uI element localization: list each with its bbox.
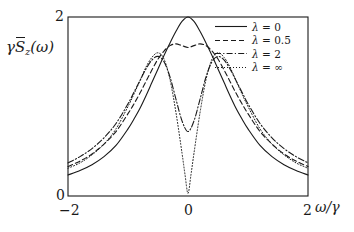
legend-lambda-symbol-2: λ [252, 48, 259, 60]
legend-swatch-dashdot [214, 48, 248, 59]
x-tick-label-2: 2 [303, 202, 312, 218]
y-axis-label: γSz(ω) [6, 38, 54, 57]
legend-label-0: λ = 0 [252, 21, 281, 33]
legend-swatch-solid [214, 21, 248, 32]
figure-container: γSz(ω) ω/γ 2 0 −2 0 2 λ = 0λ = 0.5λ = 2λ… [0, 0, 354, 232]
y-tick-label-2: 2 [55, 8, 64, 24]
legend-label-2: λ = 2 [252, 48, 281, 60]
y-axis-label-arg: (ω) [30, 38, 54, 56]
legend-label-3: λ = ∞ [252, 61, 283, 73]
x-tick-label-0: 0 [184, 202, 193, 218]
legend-swatch-dotted [214, 62, 248, 73]
legend-item-0[interactable]: λ = 0 [214, 20, 306, 33]
legend-item-1[interactable]: λ = 0.5 [214, 34, 306, 47]
y-tick-label-0: 0 [56, 187, 65, 203]
x-axis-label: ω/γ [315, 199, 340, 215]
legend-item-3[interactable]: λ = ∞ [214, 61, 306, 74]
legend-label-1: λ = 0.5 [252, 34, 291, 46]
x-tick-label-minus2: −2 [59, 202, 80, 218]
legend-lambda-symbol-1: λ [252, 34, 259, 46]
y-axis-label-gamma: γ [6, 38, 15, 56]
legend-lambda-symbol-0: λ [252, 21, 259, 33]
legend-lambda-symbol-3: λ [252, 61, 259, 73]
legend: λ = 0λ = 0.5λ = 2λ = ∞ [214, 20, 306, 74]
legend-swatch-dashed [214, 35, 248, 46]
legend-item-2[interactable]: λ = 2 [214, 47, 306, 60]
y-axis-label-s: S [15, 38, 25, 56]
